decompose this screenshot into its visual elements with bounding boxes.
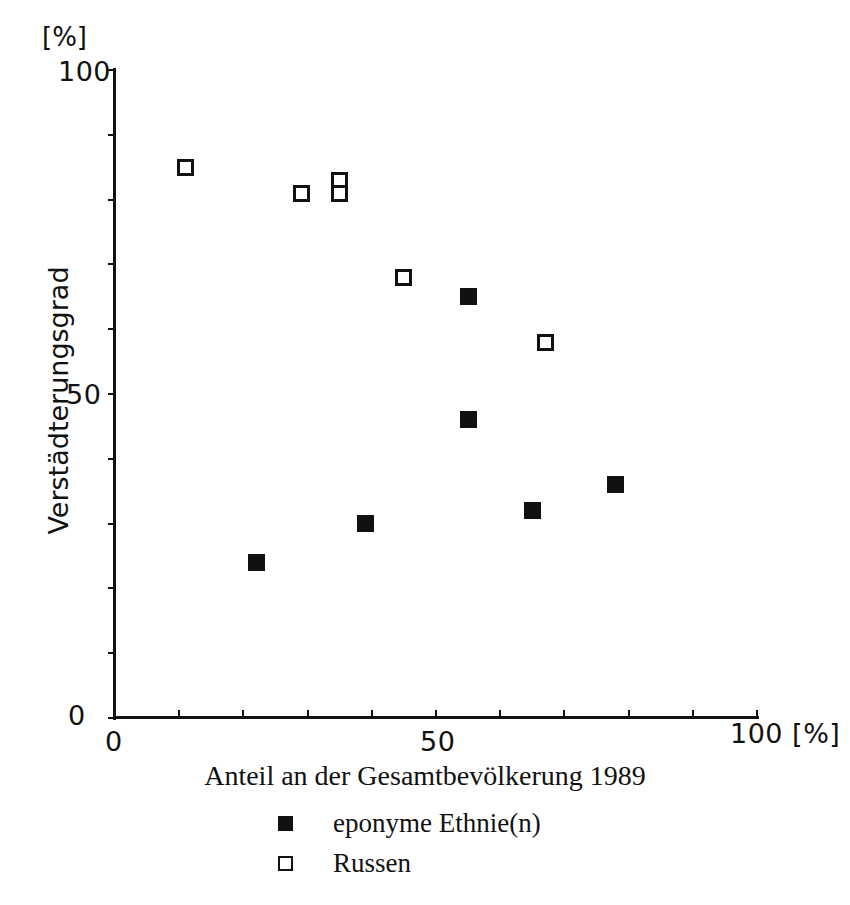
plot-area [115,70,757,718]
data-point-russen-5 [537,334,554,351]
data-point-russen-1 [293,185,310,202]
legend: eponyme Ethnie(n) Russen [278,803,678,883]
legend-label-russen: Russen [333,848,411,879]
y-axis-unit-label: [%] [42,22,87,52]
open-square-icon [278,856,293,871]
x-axis-title: Anteil an der Gesamtbevölkerung 1989 [0,760,850,792]
x-tick-label-100: 100 [%] [730,718,840,749]
scatter-chart-figure: [%] 100 50 0 0 50 100 [%] Verstädterungs… [0,0,850,905]
data-point-eponyme-ethnie-1 [357,515,374,532]
legend-label-eponyme-ethnie: eponyme Ethnie(n) [333,808,541,839]
filled-square-icon [278,816,293,831]
data-point-russen-0 [177,159,194,176]
data-point-russen-3 [331,185,348,202]
data-point-russen-4 [395,269,412,286]
data-point-eponyme-ethnie-4 [524,502,541,519]
legend-item-russen: Russen [278,843,678,883]
y-tick-label-0: 0 [68,700,86,731]
x-tick-label-50: 50 [420,726,455,757]
legend-item-eponyme-ethnie: eponyme Ethnie(n) [278,803,678,843]
data-point-eponyme-ethnie-2 [460,411,477,428]
data-point-eponyme-ethnie-3 [460,288,477,305]
y-axis-title: Verstädterungsgrad [43,251,74,551]
y-tick-label-100: 100 [58,56,111,87]
data-point-eponyme-ethnie-0 [248,554,265,571]
data-point-eponyme-ethnie-5 [607,476,624,493]
x-tick-label-0: 0 [105,726,123,757]
